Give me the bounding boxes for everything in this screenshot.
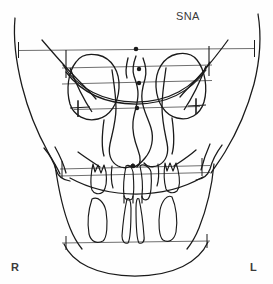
landmark-crista-galli bbox=[134, 47, 139, 52]
figure-background bbox=[0, 0, 273, 284]
landmark-nasal-superior bbox=[137, 67, 141, 71]
landmark-label-sna: SNA bbox=[176, 10, 200, 22]
ceph-tracing-canvas bbox=[0, 0, 273, 284]
landmark-nasal-middle bbox=[137, 81, 141, 85]
side-label-left: L bbox=[250, 261, 257, 273]
side-label-right: R bbox=[11, 261, 19, 273]
landmark-anterior-nasal-spine bbox=[131, 164, 136, 169]
landmark-ans-upper bbox=[135, 106, 139, 110]
ceph-tracing-figure: SNA R L bbox=[0, 0, 273, 284]
